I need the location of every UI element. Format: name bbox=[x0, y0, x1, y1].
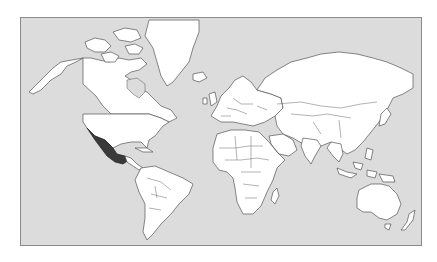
indonesia[interactable] bbox=[337, 162, 395, 182]
new-zealand[interactable] bbox=[401, 210, 415, 230]
arctic-islands[interactable] bbox=[85, 28, 143, 62]
united-states[interactable] bbox=[83, 114, 169, 148]
canada-alaska[interactable] bbox=[29, 58, 177, 122]
australia[interactable] bbox=[357, 184, 401, 220]
world-map-svg bbox=[21, 18, 422, 246]
cuba[interactable] bbox=[135, 148, 153, 152]
tasmania[interactable] bbox=[385, 224, 391, 230]
iceland[interactable] bbox=[193, 72, 207, 82]
world-map bbox=[20, 17, 422, 246]
british-isles[interactable] bbox=[203, 92, 217, 106]
greenland[interactable] bbox=[145, 20, 199, 86]
philippines[interactable] bbox=[365, 148, 373, 160]
madagascar[interactable] bbox=[271, 188, 279, 204]
central-america[interactable] bbox=[125, 156, 143, 170]
southeast-asia[interactable] bbox=[327, 142, 343, 162]
india[interactable] bbox=[301, 138, 321, 164]
south-america[interactable] bbox=[135, 166, 193, 240]
